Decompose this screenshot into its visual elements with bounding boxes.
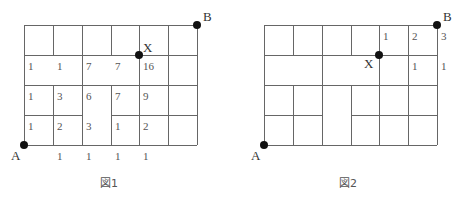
figure-2: 1 2 3 1 1 A B X 図2 bbox=[251, 9, 452, 190]
point-x-label: X bbox=[143, 40, 153, 55]
count-label: 16 bbox=[143, 60, 155, 72]
figure-1: 1 1 7 7 16 1 3 6 7 9 1 2 3 1 2 1 1 1 1 A… bbox=[11, 9, 212, 190]
count-label: 6 bbox=[86, 90, 92, 102]
point-x-dot bbox=[135, 51, 143, 59]
count-label: 7 bbox=[86, 60, 92, 72]
count-label: 2 bbox=[57, 120, 63, 132]
count-label: 3 bbox=[57, 90, 63, 102]
point-a-label: A bbox=[251, 148, 261, 163]
count-label: 7 bbox=[115, 90, 121, 102]
point-a-dot bbox=[20, 141, 28, 149]
point-x-label: X bbox=[364, 56, 374, 71]
point-b-dot bbox=[433, 21, 441, 29]
count-label: 1 bbox=[28, 90, 34, 102]
count-label: 1 bbox=[28, 60, 34, 72]
count-label: 1 bbox=[115, 120, 121, 132]
count-label: 3 bbox=[86, 120, 92, 132]
diagrams: 1 1 7 7 16 1 3 6 7 9 1 2 3 1 2 1 1 1 1 A… bbox=[0, 0, 467, 198]
count-label: 2 bbox=[412, 30, 418, 42]
point-b-dot bbox=[193, 21, 201, 29]
point-b-label: B bbox=[443, 9, 452, 24]
count-label: 1 bbox=[383, 30, 389, 42]
point-x-dot bbox=[375, 51, 383, 59]
figure-1-caption: 図1 bbox=[100, 177, 118, 190]
count-label: 1 bbox=[28, 120, 34, 132]
point-b-label: B bbox=[203, 9, 212, 24]
count-label: 1 bbox=[143, 150, 149, 162]
point-a-dot bbox=[260, 141, 268, 149]
count-label: 1 bbox=[57, 60, 63, 72]
count-label: 9 bbox=[143, 90, 149, 102]
count-label: 1 bbox=[57, 150, 63, 162]
count-label: 7 bbox=[115, 60, 121, 72]
count-label: 1 bbox=[441, 60, 447, 72]
point-a-label: A bbox=[11, 148, 21, 163]
count-label: 3 bbox=[441, 30, 447, 42]
count-label: 1 bbox=[86, 150, 92, 162]
count-label: 1 bbox=[115, 150, 121, 162]
count-label: 1 bbox=[412, 60, 418, 72]
figure-2-caption: 図2 bbox=[339, 177, 357, 190]
count-label: 2 bbox=[143, 120, 149, 132]
